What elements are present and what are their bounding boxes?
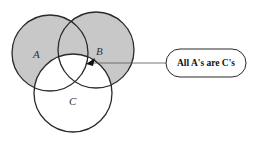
label-b: B — [96, 45, 103, 57]
shaded-region — [12, 12, 134, 91]
label-a: A — [32, 48, 40, 60]
label-c: C — [69, 95, 77, 107]
callout-text: All A's are C's — [177, 58, 235, 68]
venn-diagram: A B C All A's are C's — [0, 0, 256, 141]
